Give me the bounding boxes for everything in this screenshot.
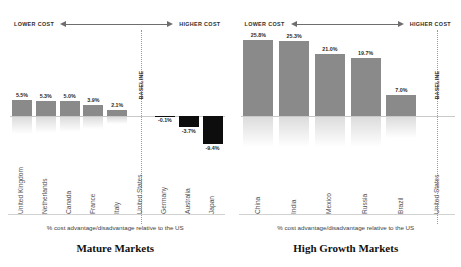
category-column: United Kingdom [10,148,34,214]
bar-value-label: 21.0% [312,46,348,52]
category-label: United States [433,174,440,214]
baseline-label: BASELINE [138,71,144,100]
cost-direction-arrow-left [58,21,175,28]
cost-direction-arrow-right [289,21,406,28]
divider-right [239,214,456,215]
category-column: Germany [153,148,177,214]
bar-column: 2.1% [105,36,129,146]
cost-axis-header-left: LOWER COST HIGHER COST [14,17,221,31]
bar-value-label: 25.3% [276,33,312,39]
bar-value-label: -0.1% [153,117,177,123]
bar-column: -9.4% [201,36,225,146]
bar-positive [60,101,80,116]
bar-column: -0.1% [153,36,177,146]
category-column: United States [419,148,455,214]
bar-value-label: 3.9% [81,97,105,103]
category-column: United States [129,148,153,214]
bar-column: 19.7% [348,36,384,146]
arrow-head-right-icon [167,21,173,27]
category-label: United Kingdom [17,167,24,214]
category-column: China [241,148,277,214]
baseline-marker: BASELINE [419,36,455,146]
arrow-line [66,24,167,25]
bar-column: 5.5% [10,36,34,146]
bar-column: 3.9% [81,36,105,146]
lower-cost-label-left: LOWER COST [14,21,54,27]
bar-value-label: 19.7% [348,50,384,56]
bar-value-label: 5.0% [58,93,82,99]
category-column: Australia [177,148,201,214]
category-column: France [81,148,105,214]
dual-bar-chart-figure: LOWER COST HIGHER COST 5.5%5.3%5.0%3.9%2… [0,0,461,267]
arrow-head-right-icon [398,21,404,27]
bar-column: 25.8% [241,36,277,146]
lower-cost-label-right: LOWER COST [245,21,285,27]
category-column: Japan [201,148,225,214]
category-column: Brazil [384,148,420,214]
chart-subtitle-right: % cost advantage/disadvantage relative t… [231,224,461,231]
category-column: Canada [58,148,82,214]
chart-title-left: Mature Markets [0,242,231,254]
bar-column: 7.0% [384,36,420,146]
category-labels-left: United KingdomNetherlandsCanadaFranceIta… [10,148,225,214]
bar-positive [315,54,345,116]
bar-positive [12,100,32,116]
category-label: Mexico [325,193,332,214]
category-label: Japan [208,196,215,214]
plot-area-right: 25.8%25.3%21.0%19.7%7.0%BASELINE [241,36,456,146]
bar-value-label: 2.1% [105,102,129,108]
panel-mature-markets: LOWER COST HIGHER COST 5.5%5.3%5.0%3.9%2… [0,0,231,267]
chart-subtitle-left: % cost advantage/disadvantage relative t… [0,224,231,231]
bar-positive [351,58,381,117]
category-column: Italy [105,148,129,214]
category-column: Russia [348,148,384,214]
bar-negative [203,116,223,144]
bar-group-right: 25.8%25.3%21.0%19.7%7.0%BASELINE [241,36,456,146]
bar-positive [107,110,127,116]
category-label: Italy [113,202,120,214]
bar-negative [179,116,199,127]
category-label: China [254,197,261,214]
category-label: United States [136,174,143,214]
bar-positive [279,41,309,116]
category-label: Brazil [397,198,404,215]
baseline-marker: BASELINE [129,36,153,146]
arrow-line [297,24,398,25]
bar-column: 25.3% [276,36,312,146]
category-label: Australia [184,188,191,214]
baseline-label: BASELINE [434,71,440,100]
category-label: France [89,193,96,214]
bar-value-label: 5.3% [34,93,58,99]
bar-value-label: 25.8% [241,32,277,38]
category-label: Canada [65,191,72,214]
bar-column: -3.7% [177,36,201,146]
cost-axis-header-right: LOWER COST HIGHER COST [245,17,452,31]
higher-cost-label-right: HIGHER COST [410,21,451,27]
higher-cost-label-left: HIGHER COST [179,21,220,27]
category-label: India [290,200,297,214]
bar-value-label: 5.5% [10,92,34,98]
bar-column: 5.3% [34,36,58,146]
bar-group-left: 5.5%5.3%5.0%3.9%2.1%BASELINE-0.1%-3.7%-9… [10,36,225,146]
category-label: Russia [361,194,368,214]
category-column: India [276,148,312,214]
bar-positive [243,40,273,117]
panel-high-growth-markets: LOWER COST HIGHER COST 25.8%25.3%21.0%19… [231,0,461,267]
bar-positive [83,105,103,117]
bar-column: 5.0% [58,36,82,146]
bar-column: 21.0% [312,36,348,146]
category-label: Germany [160,187,167,214]
category-column: Netherlands [34,148,58,214]
bar-value-label: -3.7% [177,128,201,134]
category-label: Netherlands [41,178,48,214]
category-labels-right: ChinaIndiaMexicoRussiaBrazilUnited State… [241,148,456,214]
bar-positive [36,101,56,117]
plot-area-left: 5.5%5.3%5.0%3.9%2.1%BASELINE-0.1%-3.7%-9… [10,36,225,146]
chart-title-right: High Growth Markets [231,242,461,254]
category-column: Mexico [312,148,348,214]
divider-left [8,214,225,215]
bar-value-label: 7.0% [384,87,420,93]
bar-positive [386,95,416,116]
